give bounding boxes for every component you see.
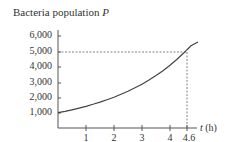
plot-area — [0, 0, 229, 142]
y-tick-label: 5,000 — [8, 45, 52, 56]
y-tick-label: 6,000 — [8, 29, 52, 40]
x-axis-unit: (h) — [203, 122, 217, 133]
x-tick-label: 1 — [76, 132, 96, 142]
y-tick-label: 4,000 — [8, 60, 52, 71]
x-tick-label: 2 — [104, 132, 124, 142]
x-tick-label: 4.6 — [179, 132, 199, 142]
x-axis-label: t (h) — [200, 122, 217, 133]
y-tick-label: 2,000 — [8, 91, 52, 102]
x-tick-label: 3 — [132, 132, 152, 142]
x-tick-label: 4 — [160, 132, 180, 142]
y-tick-label: 3,000 — [8, 76, 52, 87]
population-curve — [58, 42, 198, 113]
y-tick-label: 1,000 — [8, 106, 52, 117]
